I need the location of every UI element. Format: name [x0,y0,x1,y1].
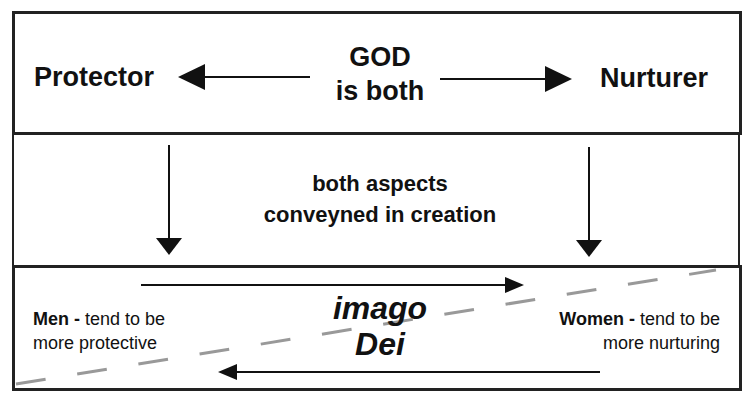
god-label: GOD is both [320,40,440,108]
arrow-down-left-icon [156,145,182,255]
nurturer-label: Nurturer [600,63,708,94]
imago-dei-title: imago Dei [300,290,460,362]
middle-line2: conveyned in creation [250,199,510,230]
dei-line: Dei [300,326,460,362]
imago-line: imago [300,290,460,326]
arrow-bottom-left-icon [218,364,600,380]
god-line1: GOD [320,40,440,74]
middle-caption: both aspects conveyned in creation [250,168,510,230]
middle-line1: both aspects [250,168,510,199]
women-description: Women - tend to be more nurturing [520,307,720,355]
god-line2: is both [320,74,440,108]
men-description: Men - tend to be more protective [33,307,165,355]
arrow-right-icon [440,66,572,92]
protector-label: Protector [34,62,154,93]
arrow-left-icon [178,64,310,90]
arrow-down-right-icon [576,147,602,257]
